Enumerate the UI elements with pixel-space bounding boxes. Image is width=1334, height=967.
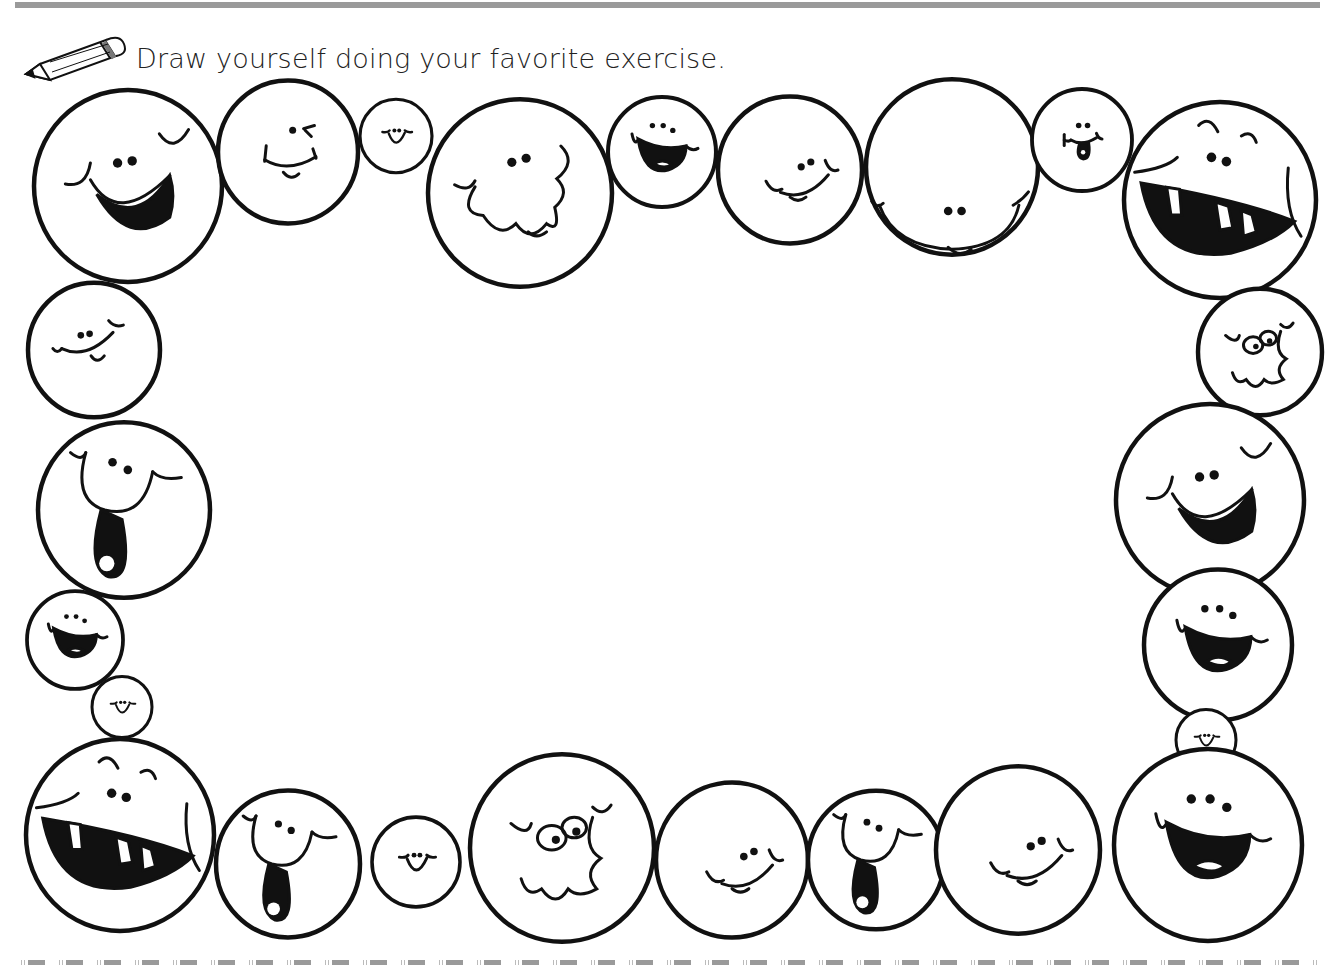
smiley-face-open-mouth-icon [27, 591, 123, 689]
smiley-face-smile-icon [936, 766, 1100, 933]
bottom-rule [15, 960, 1320, 965]
smiley-face-small-smile-icon [360, 99, 432, 172]
smiley-face-open-mouth-icon [608, 97, 716, 207]
smiley-face-tongue-down-icon [808, 791, 944, 930]
smiley-face-tongue-down-icon [38, 422, 210, 597]
smiley-face-toothy-laugh-icon [26, 739, 214, 931]
smiley-face-open-mouth-icon [1144, 570, 1292, 721]
smiley-face-smile-icon [718, 97, 862, 244]
smiley-face-smirk-icon [28, 283, 160, 418]
smiley-face-wink-icon [218, 81, 358, 224]
smiley-face-smile-icon [656, 782, 808, 937]
smiley-face-tongue-down-icon [216, 791, 360, 938]
smiley-face-googly-wavy-icon [470, 754, 654, 942]
smiley-face-small-smile-icon [92, 676, 152, 737]
smiley-face-tongue-out-icon [1032, 89, 1132, 191]
smiley-face-big-grin-icon [34, 90, 222, 282]
smiley-face-smile-tongue-icon [866, 79, 1038, 254]
smiley-face-toothy-laugh-icon [1124, 102, 1316, 298]
smiley-face-googly-wavy-icon [1198, 289, 1322, 415]
smiley-face-open-mouth-icon [1114, 749, 1302, 941]
smiley-face-big-grin-icon [1116, 404, 1304, 596]
smiley-face-small-smile-icon [372, 817, 460, 907]
smiley-face-wavy-icon [428, 99, 612, 287]
smiley-face-border [0, 0, 1334, 967]
